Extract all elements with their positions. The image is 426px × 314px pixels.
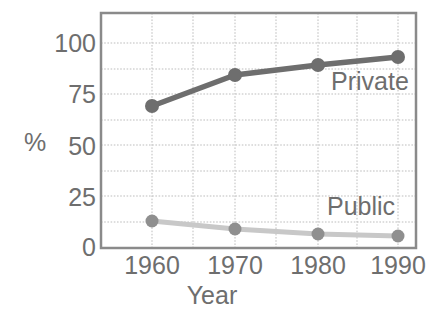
series-label-public: Public [327, 194, 395, 219]
data-point-public-1990 [392, 230, 405, 243]
data-point-private-1960 [145, 99, 159, 113]
x-tick-1990: 1990 [370, 253, 426, 278]
data-point-private-1990 [391, 50, 405, 64]
series-label-private: Private [331, 69, 409, 94]
x-tick-1960: 1960 [124, 253, 180, 278]
data-point-private-1980 [311, 58, 325, 72]
x-tick-1980: 1980 [290, 253, 346, 278]
data-point-private-1970 [228, 68, 242, 82]
data-point-public-1960 [146, 215, 159, 228]
x-tick-1970: 1970 [207, 253, 263, 278]
x-axis-label: Year [0, 281, 424, 310]
data-point-public-1980 [312, 228, 325, 241]
data-point-public-1970 [229, 223, 242, 236]
